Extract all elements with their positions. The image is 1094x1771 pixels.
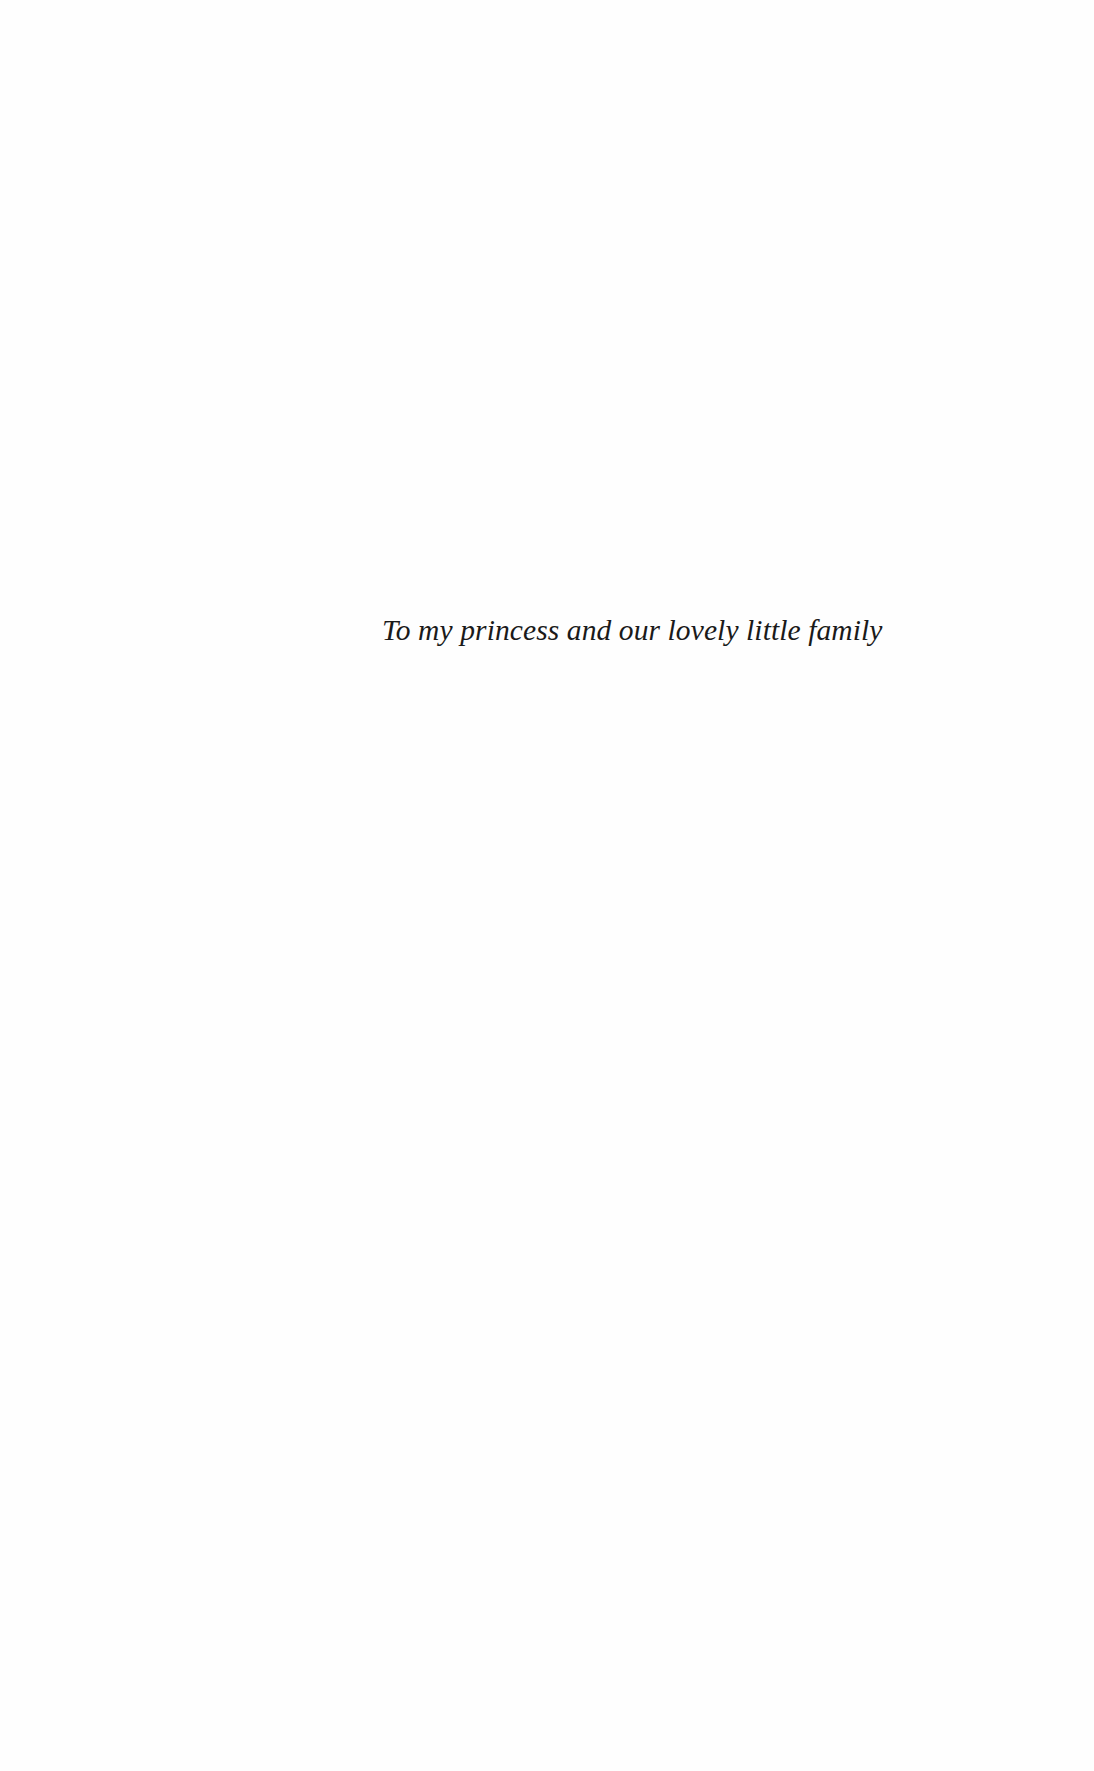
- dedication-page: To my princess and our lovely little fam…: [0, 0, 1094, 1771]
- dedication-text: To my princess and our lovely little fam…: [382, 612, 942, 648]
